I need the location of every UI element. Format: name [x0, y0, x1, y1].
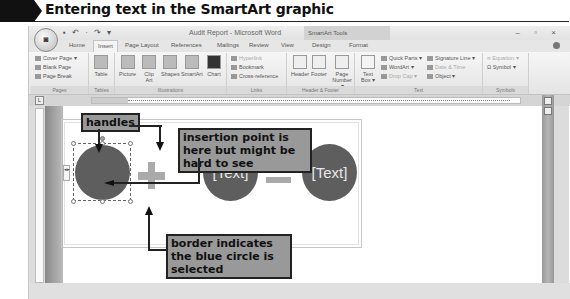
- group-label-symbols: Symbols: [483, 86, 528, 94]
- bookmark-button[interactable]: Bookmark: [231, 64, 264, 70]
- drop-cap-button[interactable]: Drop Cap ▾: [381, 73, 417, 79]
- header-button[interactable]: Header: [291, 55, 309, 77]
- group-label-illustrations: Illustrations: [115, 86, 226, 94]
- sizing-handle[interactable]: [71, 141, 76, 146]
- object-button[interactable]: Object ▾: [427, 73, 455, 79]
- group-tables: Table Tables: [89, 53, 115, 94]
- footer-icon: [312, 55, 326, 69]
- figure-tab-marker: [0, 0, 34, 22]
- arrow-left-icon: [104, 180, 114, 186]
- quick-parts-button[interactable]: Quick Parts ▾: [381, 55, 422, 61]
- cover-page-button[interactable]: Cover Page ▾: [35, 55, 77, 61]
- ribbon-tabs: Home Insert Page Layout References Maili…: [29, 40, 570, 52]
- bookmark-icon: [231, 65, 237, 70]
- wordart-icon: [381, 65, 387, 70]
- callout-line: [148, 249, 168, 251]
- horizontal-ruler[interactable]: [91, 97, 521, 104]
- group-pages: Cover Page ▾ Blank Page Page Break Pages: [31, 53, 89, 94]
- smartart-tools-tab: SmartArt Tools: [304, 26, 390, 40]
- tab-format[interactable]: Format: [349, 42, 368, 48]
- office-button[interactable]: ◙: [34, 28, 58, 52]
- tab-review[interactable]: Review: [249, 42, 269, 48]
- equals-sign-bottom: [266, 177, 291, 183]
- vertical-ruler[interactable]: [35, 108, 44, 283]
- object-icon: [427, 74, 433, 79]
- tab-selector[interactable]: L: [35, 96, 44, 105]
- group-text: Text Box ▾ Quick Parts ▾ WordArt ▾ Drop …: [355, 53, 483, 94]
- page-break-icon: [35, 74, 41, 79]
- group-label-header-footer: Header & Footer: [287, 86, 354, 94]
- page-number-icon: [335, 55, 349, 69]
- tab-page-layout[interactable]: Page Layout: [125, 42, 159, 48]
- header-icon: [293, 55, 307, 69]
- text-box-button[interactable]: Text Box ▾: [359, 55, 377, 83]
- picture-button[interactable]: Picture: [119, 55, 136, 77]
- page-break-button[interactable]: Page Break: [35, 73, 72, 79]
- smartart-button[interactable]: SmartArt: [181, 55, 203, 77]
- callout-line: [148, 214, 150, 251]
- shapes-icon: [163, 55, 177, 69]
- plus-sign-bar: [138, 172, 165, 180]
- arrow-up-icon: [145, 206, 153, 215]
- callout-line: [129, 125, 162, 127]
- callout-line: [159, 125, 161, 143]
- quick-parts-icon: [381, 56, 387, 61]
- footer-button[interactable]: Footer: [311, 55, 327, 77]
- signature-line-icon: [427, 56, 433, 61]
- clip-art-button[interactable]: Clip Art: [141, 55, 157, 83]
- blank-page-button[interactable]: Blank Page: [35, 64, 71, 70]
- callout-handles: handles: [81, 113, 140, 132]
- sizing-handle[interactable]: [128, 199, 133, 204]
- group-links: Hyperlink Bookmark Cross-reference Links: [227, 53, 287, 94]
- figure-title-bar: Entering text in the SmartArt graphic: [0, 0, 569, 22]
- arrow-down-icon: [156, 142, 164, 151]
- cross-reference-button[interactable]: Cross-reference: [231, 73, 278, 79]
- tab-insert[interactable]: Insert: [93, 40, 118, 52]
- page-number-button[interactable]: Page Number ▾: [331, 55, 353, 89]
- group-header-footer: Header Footer Page Number ▾ Header & Foo…: [287, 53, 355, 94]
- hyperlink-button[interactable]: Hyperlink: [231, 55, 262, 61]
- tab-home[interactable]: Home: [69, 42, 85, 48]
- tab-references[interactable]: References: [171, 42, 202, 48]
- window-controls[interactable]: – ▫ ×: [516, 28, 562, 37]
- callout-line: [198, 158, 200, 184]
- help-icon[interactable]: [553, 42, 560, 49]
- title-bar: ▪ ↶ · ↷ ▾ Audit Report - Microsoft Word …: [29, 26, 570, 40]
- group-symbols: π Equation ▾ Ω Symbol ▾ Symbols: [483, 53, 529, 94]
- callout-border: border indicates the blue circle is sele…: [166, 234, 292, 279]
- arrow-down-icon: [95, 144, 103, 153]
- group-label-tables: Tables: [89, 86, 114, 94]
- figure-title: Entering text in the SmartArt graphic: [45, 1, 334, 17]
- sizing-handle[interactable]: [71, 199, 76, 204]
- group-label-links: Links: [227, 86, 286, 94]
- picture-icon: [121, 55, 135, 69]
- tab-design[interactable]: Design: [312, 42, 331, 48]
- shapes-button[interactable]: Shapes: [161, 55, 180, 77]
- text-pane-toggle[interactable]: ◂▸: [63, 165, 70, 181]
- horizontal-ruler-row: L: [29, 95, 570, 106]
- quick-access-toolbar[interactable]: ▪ ↶ · ↷ ▾: [63, 28, 113, 37]
- group-illustrations: Picture Clip Art Shapes SmartArt Chart I…: [115, 53, 227, 94]
- text-box-icon: [361, 55, 375, 69]
- sizing-handle[interactable]: [100, 199, 105, 204]
- sizing-handle[interactable]: [128, 141, 133, 146]
- tab-view[interactable]: View: [281, 42, 294, 48]
- equation-button[interactable]: π Equation ▾: [487, 55, 519, 61]
- signature-line-button[interactable]: Signature Line ▾: [427, 55, 475, 61]
- view-ruler-button[interactable]: [544, 107, 552, 115]
- status-area: [29, 283, 570, 299]
- vertical-scrollbar[interactable]: [542, 95, 554, 283]
- symbol-button[interactable]: Ω Symbol ▾: [487, 64, 516, 70]
- ribbon: Cover Page ▾ Blank Page Page Break Pages…: [29, 52, 570, 95]
- drop-cap-icon: [381, 74, 387, 79]
- date-time-icon: [427, 65, 433, 70]
- cross-reference-icon: [231, 74, 237, 79]
- table-icon: [94, 55, 108, 69]
- chart-button[interactable]: Chart: [207, 55, 221, 77]
- scroll-up-button[interactable]: [544, 97, 552, 105]
- table-button[interactable]: Table: [94, 55, 108, 77]
- date-time-button[interactable]: Date & Time: [427, 64, 465, 70]
- tab-mailings[interactable]: Mailings: [217, 42, 239, 48]
- wordart-button[interactable]: WordArt ▾: [381, 64, 414, 70]
- chart-icon: [207, 55, 221, 69]
